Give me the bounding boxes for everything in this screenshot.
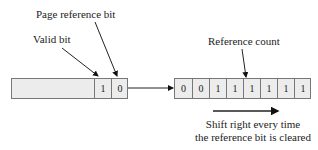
shift-caption-line2: the reference bit is cleared xyxy=(188,131,318,144)
valid-bit-arrow xyxy=(62,48,98,76)
page-reference-bit-arrow xyxy=(95,22,117,76)
reference-count-arrow xyxy=(242,49,246,77)
shift-caption: Shift right every time the reference bit… xyxy=(188,118,318,144)
shift-caption-line1: Shift right every time xyxy=(188,118,318,131)
